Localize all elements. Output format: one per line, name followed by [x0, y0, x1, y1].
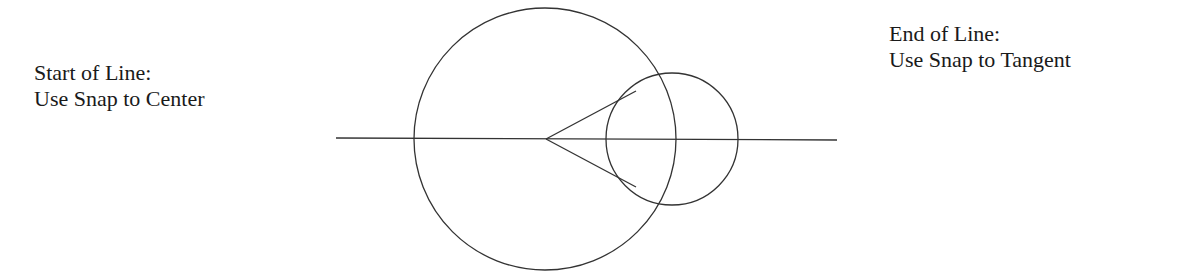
lower-tangent-line	[546, 139, 636, 187]
upper-tangent-line	[546, 91, 636, 139]
tangent-construction-diagram	[0, 0, 1177, 276]
horizontal-axis-line	[336, 138, 837, 140]
diagram-geometry	[336, 8, 837, 270]
